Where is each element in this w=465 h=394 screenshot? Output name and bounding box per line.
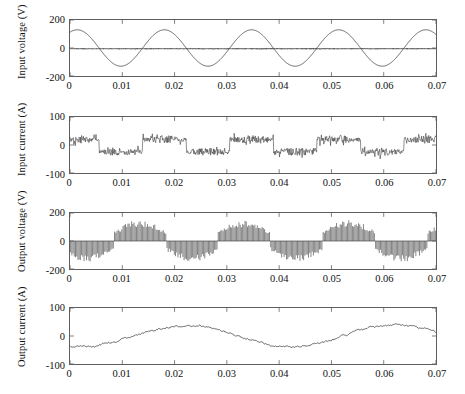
x-tick-label: 0.01 — [112, 177, 130, 188]
x-tick-label: 0.03 — [218, 273, 236, 284]
plot-area-input-voltage — [69, 19, 437, 77]
x-tick-label: 0 — [66, 177, 71, 188]
x-tick-label: 0 — [66, 368, 71, 379]
x-tick-label: 0.02 — [165, 368, 183, 379]
x-tick-label: 0.07 — [428, 177, 446, 188]
plot-area-output-current — [69, 307, 437, 365]
y-tick-labels-input-voltage: -2000200 — [31, 19, 65, 77]
y-axis-label-input-voltage: Input voltage (V) — [16, 79, 30, 90]
y-tick-labels-output-current: -1000100 — [31, 307, 65, 365]
x-tick-label: 0.03 — [218, 80, 236, 91]
y-tick-label: 0 — [60, 331, 65, 342]
x-tick-labels-input-current: 00.010.020.030.040.050.060.07 — [69, 177, 437, 191]
y-tick-labels-input-current: -1000100 — [31, 116, 65, 174]
y-axis-label-text: Output voltage (V) — [16, 258, 27, 272]
x-tick-labels-input-voltage: 00.010.020.030.040.050.060.07 — [69, 80, 437, 94]
x-tick-label: 0.05 — [323, 368, 341, 379]
y-tick-label: 200 — [49, 207, 65, 218]
x-tick-label: 0.07 — [428, 80, 446, 91]
x-tick-label: 0.03 — [218, 368, 236, 379]
x-tick-labels-output-voltage: 00.010.020.030.040.050.060.07 — [69, 273, 437, 287]
x-tick-label: 0.04 — [270, 80, 288, 91]
x-tick-label: 0.02 — [165, 273, 183, 284]
x-tick-label: 0.04 — [270, 273, 288, 284]
y-tick-label: 100 — [49, 302, 65, 313]
y-tick-label: 0 — [60, 43, 65, 54]
y-axis-label-input-current: Input current (A) — [16, 176, 30, 187]
plot-area-output-voltage — [69, 212, 437, 270]
x-tick-label: 0.05 — [323, 177, 341, 188]
x-tick-label: 0.06 — [375, 177, 393, 188]
y-axis-label-output-current: Output current (A) — [16, 367, 30, 378]
x-tick-label: 0.04 — [270, 368, 288, 379]
x-tick-label: 0.07 — [428, 368, 446, 379]
y-axis-label-text: Input voltage (V) — [16, 65, 27, 79]
y-tick-label: -100 — [46, 169, 65, 180]
x-tick-label: 0.03 — [218, 177, 236, 188]
x-tick-label: 0 — [66, 273, 71, 284]
x-tick-label: 0 — [66, 80, 71, 91]
x-tick-label: 0.05 — [323, 80, 341, 91]
y-axis-label-text: Output current (A) — [16, 353, 27, 367]
y-tick-label: 100 — [49, 111, 65, 122]
y-tick-label: 0 — [60, 236, 65, 247]
plot-area-input-current — [69, 116, 437, 174]
x-tick-label: 0.06 — [375, 80, 393, 91]
x-tick-label: 0.02 — [165, 80, 183, 91]
x-tick-label: 0.06 — [375, 368, 393, 379]
x-tick-label: 0.07 — [428, 273, 446, 284]
y-tick-label: -100 — [46, 360, 65, 371]
x-tick-labels-output-current: 00.010.020.030.040.050.060.07 — [69, 368, 437, 382]
x-tick-label: 0.01 — [112, 368, 130, 379]
x-tick-label: 0.05 — [323, 273, 341, 284]
x-tick-label: 0.01 — [112, 273, 130, 284]
y-tick-label: -200 — [46, 265, 65, 276]
y-tick-labels-output-voltage: -2000200 — [31, 212, 65, 270]
y-tick-label: 0 — [60, 140, 65, 151]
y-axis-label-output-voltage: Output voltage (V) — [16, 272, 30, 283]
x-tick-label: 0.06 — [375, 273, 393, 284]
y-tick-label: 200 — [49, 14, 65, 25]
y-axis-label-text: Input current (A) — [16, 162, 27, 176]
figure-canvas: Input voltage (V)-200020000.010.020.030.… — [0, 0, 465, 394]
x-tick-label: 0.02 — [165, 177, 183, 188]
y-tick-label: -200 — [46, 72, 65, 83]
x-tick-label: 0.01 — [112, 80, 130, 91]
x-tick-label: 0.04 — [270, 177, 288, 188]
